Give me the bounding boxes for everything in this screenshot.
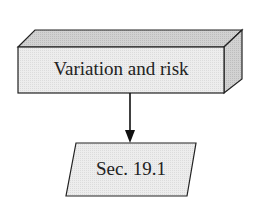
connector-arrow xyxy=(125,93,135,143)
flow-diagram xyxy=(0,0,266,214)
box-top-face xyxy=(18,30,242,47)
variation-and-risk-label: Variation and risk xyxy=(18,58,224,80)
arrow-head-icon xyxy=(125,130,135,143)
sec-19-1-label: Sec. 19.1 xyxy=(68,158,194,180)
